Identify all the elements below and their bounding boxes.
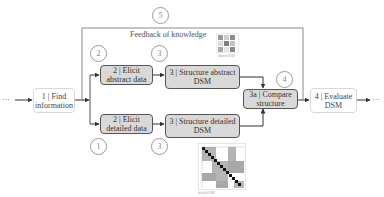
- node-find-information[interactable]: 1 | Findinformation: [33, 88, 75, 113]
- diagram-canvas: ··· ··· Feedback of knowledge 1 | Findin…: [0, 0, 384, 197]
- abstract-dsm-caption: abstract DSM: [218, 54, 235, 58]
- flow-in-ellipsis: ···: [2, 95, 10, 104]
- step-marker-5: 5: [152, 7, 169, 24]
- node-label: DSM: [315, 101, 353, 110]
- node-elicit-detailed-data[interactable]: 2 | Elicitdetailed data: [100, 114, 153, 134]
- flow-out-ellipsis: ···: [372, 95, 380, 104]
- node-label: 2 | Elicit: [106, 66, 146, 75]
- abstract-dsm-thumbnail: [216, 33, 239, 53]
- node-label: 3a | Compare: [249, 90, 291, 99]
- node-label: 3 | Structure detailed: [169, 117, 235, 126]
- node-label: structure: [249, 99, 291, 108]
- detailed-dsm-caption: detailed DSM: [198, 191, 215, 195]
- feedback-label: Feedback of knowledge: [130, 30, 206, 39]
- step-marker-2: 2: [90, 45, 107, 62]
- node-evaluate-dsm[interactable]: 4 | EvaluateDSM: [310, 88, 357, 113]
- node-label: 4 | Evaluate: [315, 92, 353, 101]
- node-label: DSM: [169, 126, 235, 135]
- node-label: detailed data: [106, 124, 147, 133]
- node-label: 1 | Find: [35, 92, 73, 101]
- step-marker-3-top: 3: [151, 45, 168, 62]
- step-marker-3-bottom: 3: [151, 138, 168, 155]
- node-structure-detailed-dsm[interactable]: 3 | Structure detailedDSM: [165, 114, 240, 138]
- node-label: information: [35, 101, 73, 110]
- detailed-dsm-thumbnail: [198, 143, 246, 190]
- node-label: 2 | Elicit: [106, 115, 147, 124]
- node-structure-abstract-dsm[interactable]: 3 | Structure abstractDSM: [165, 65, 240, 89]
- step-marker-4: 4: [276, 71, 293, 88]
- node-label: 3 | Structure abstract: [170, 68, 236, 77]
- node-elicit-abstract-data[interactable]: 2 | Elicitabstract data: [100, 65, 153, 85]
- node-label: abstract data: [106, 75, 146, 84]
- node-compare-structure[interactable]: 3a | Comparestructure: [243, 89, 298, 109]
- node-label: DSM: [170, 77, 236, 86]
- step-marker-1: 1: [90, 138, 107, 155]
